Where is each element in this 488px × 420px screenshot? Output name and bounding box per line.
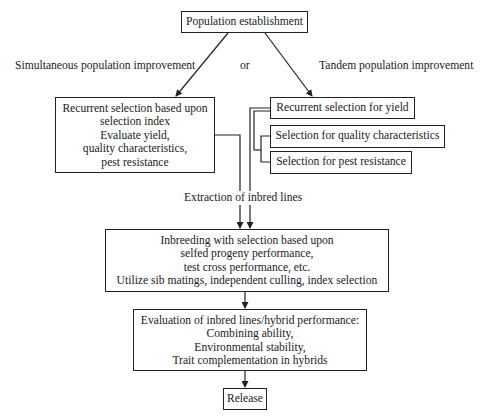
box-line: quality characteristics, bbox=[56, 142, 214, 155]
pest-selection-label: Selection for pest resistance bbox=[271, 152, 411, 172]
box-line: Utilize sib matings, independent culling… bbox=[106, 274, 388, 287]
pest-selection-box: Selection for pest resistance bbox=[270, 151, 412, 174]
box-line: test cross performance, etc. bbox=[106, 261, 388, 274]
recurrent-to-inbreeding bbox=[250, 108, 270, 228]
recurrent-yield-box: Recurrent selection for yield bbox=[270, 97, 415, 119]
recurrent-yield-label: Recurrent selection for yield bbox=[271, 98, 414, 117]
box-line: Trait complementation in hybrids bbox=[134, 354, 366, 367]
evaluation-box: Evaluation of inbred lines/hybrid perfor… bbox=[133, 309, 367, 371]
population-establishment-box: Population establishment bbox=[181, 11, 308, 33]
arrow-to-tandem bbox=[265, 33, 312, 96]
inbreeding-box: Inbreeding with selection based upon sel… bbox=[105, 229, 389, 292]
release-box: Release bbox=[223, 388, 267, 410]
tandem-label: Tandem population improvement bbox=[319, 59, 473, 73]
box-line: pest resistance bbox=[56, 156, 214, 169]
quality-selection-box: Selection for quality characteristics bbox=[270, 125, 445, 148]
extraction-label: Extraction of inbred lines bbox=[183, 191, 303, 205]
or-label: or bbox=[240, 59, 250, 73]
population-establishment-label: Population establishment bbox=[182, 12, 307, 31]
box-line: Evaluate yield, bbox=[56, 129, 214, 142]
release-label: Release bbox=[224, 389, 266, 408]
quality-pest-bracket bbox=[261, 136, 270, 162]
box-line: Environmental stability, bbox=[134, 341, 366, 354]
box-line: Inbreeding with selection based upon bbox=[106, 234, 388, 247]
simultaneous-label: Simultaneous population improvement bbox=[15, 59, 195, 73]
box-line: Evaluation of inbred lines/hybrid perfor… bbox=[134, 314, 366, 327]
box-line: selection index bbox=[56, 115, 214, 128]
quality-selection-label: Selection for quality characteristics bbox=[271, 126, 444, 146]
box-line: Combining ability, bbox=[134, 327, 366, 340]
box-line: Recurrent selection based upon bbox=[56, 102, 214, 115]
simultaneous-selection-box: Recurrent selection based upon selection… bbox=[55, 97, 215, 173]
box-line: selfed progeny performance, bbox=[106, 247, 388, 260]
simultaneous-to-inbreeding bbox=[215, 135, 240, 228]
